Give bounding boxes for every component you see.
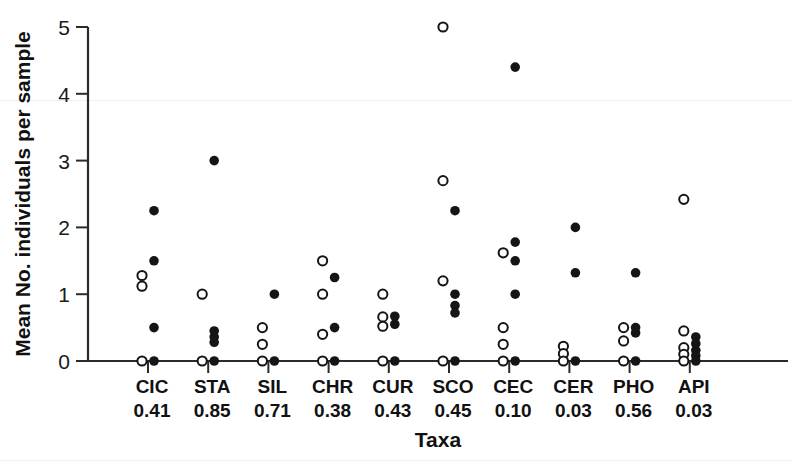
data-point-open: [438, 356, 447, 365]
category-label: SCO: [432, 376, 473, 397]
data-point-filled: [330, 273, 340, 283]
data-point-filled: [209, 337, 219, 347]
data-point-filled: [209, 156, 219, 166]
data-point-filled: [571, 223, 581, 233]
data-point-open: [378, 290, 387, 299]
data-point-open: [679, 195, 688, 204]
data-point-filled: [149, 206, 159, 216]
category-value: 0.45: [435, 400, 472, 421]
y-tick-group: 012345: [58, 16, 88, 373]
data-point-open: [258, 356, 267, 365]
data-point-open: [499, 248, 508, 257]
category-value: 0.38: [314, 400, 351, 421]
y-tick-label: 4: [58, 83, 70, 106]
data-point-filled: [149, 356, 159, 366]
data-point-open: [619, 323, 628, 332]
y-tick-label: 0: [58, 350, 70, 373]
category-value: 0.03: [555, 400, 592, 421]
data-point-open: [378, 312, 387, 321]
data-point-open: [137, 356, 146, 365]
data-point-filled: [510, 62, 520, 72]
data-point-filled: [510, 356, 520, 366]
data-point-filled: [450, 206, 460, 216]
category-value: 0.71: [254, 400, 291, 421]
category-label-group: CIC0.41STA0.85SIL0.71CHR0.38CUR0.43SCO0.…: [134, 376, 713, 421]
data-point-filled: [450, 308, 460, 318]
data-point-open: [318, 256, 327, 265]
data-point-filled: [330, 323, 340, 333]
category-value: 0.43: [374, 400, 411, 421]
data-point-filled: [510, 256, 520, 266]
x-axis-title: Taxa: [415, 428, 462, 451]
category-value: 0.41: [134, 400, 171, 421]
data-point-filled: [270, 356, 280, 366]
data-point-open: [137, 271, 146, 280]
data-point-filled: [270, 289, 280, 299]
data-point-filled: [631, 328, 641, 338]
category-value: 0.10: [495, 400, 532, 421]
category-label: CEC: [493, 376, 533, 397]
category-label: CUR: [372, 376, 413, 397]
data-point-filled: [209, 356, 219, 366]
data-point-open: [258, 323, 267, 332]
data-point-open: [378, 356, 387, 365]
data-point-filled: [149, 323, 159, 333]
data-point-filled: [571, 356, 581, 366]
data-point-open: [619, 356, 628, 365]
data-point-open: [619, 336, 628, 345]
data-point-filled: [330, 356, 340, 366]
category-label: CIC: [136, 376, 169, 397]
category-label: CHR: [312, 376, 353, 397]
data-point-open: [679, 356, 688, 365]
y-tick-label: 1: [58, 283, 70, 306]
data-point-filled: [450, 289, 460, 299]
data-point-open: [318, 330, 327, 339]
scatter-plot-figure: 012345 CIC0.41STA0.85SIL0.71CHR0.38CUR0.…: [0, 0, 792, 467]
open-circle-series: [137, 22, 688, 365]
data-point-open: [438, 176, 447, 185]
data-point-filled: [510, 289, 520, 299]
data-point-filled: [450, 356, 460, 366]
data-point-open: [318, 290, 327, 299]
y-tick-label: 2: [58, 216, 70, 239]
y-tick-label: 3: [58, 150, 70, 173]
data-point-open: [198, 356, 207, 365]
category-label: CER: [553, 376, 593, 397]
x-tick-group: [148, 361, 690, 373]
data-point-open: [438, 276, 447, 285]
data-point-open: [559, 356, 568, 365]
data-point-open: [499, 323, 508, 332]
data-point-open: [318, 356, 327, 365]
filled-circle-series: [149, 62, 700, 366]
data-point-filled: [631, 356, 641, 366]
category-label: PHO: [613, 376, 654, 397]
category-label: STA: [194, 376, 231, 397]
data-point-open: [258, 340, 267, 349]
category-value: 0.03: [675, 400, 712, 421]
data-point-open: [499, 340, 508, 349]
category-value: 0.85: [194, 400, 231, 421]
data-point-filled: [691, 356, 701, 366]
data-point-filled: [390, 356, 400, 366]
data-point-filled: [571, 268, 581, 278]
data-point-open: [438, 22, 447, 31]
data-point-filled: [510, 237, 520, 247]
data-point-open: [499, 356, 508, 365]
data-point-filled: [390, 319, 400, 329]
data-point-open: [378, 322, 387, 331]
y-tick-label: 5: [58, 16, 70, 39]
plot-canvas: 012345 CIC0.41STA0.85SIL0.71CHR0.38CUR0.…: [0, 0, 792, 467]
data-point-open: [137, 282, 146, 291]
category-value: 0.56: [615, 400, 652, 421]
y-axis-title: Mean No. individuals per sample: [11, 31, 34, 357]
data-point-open: [679, 326, 688, 335]
data-point-open: [198, 290, 207, 299]
data-point-filled: [149, 256, 159, 266]
category-label: SIL: [258, 376, 288, 397]
data-point-filled: [631, 268, 641, 278]
category-label: API: [678, 376, 710, 397]
